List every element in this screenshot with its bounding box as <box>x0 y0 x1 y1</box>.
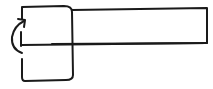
diagram-canvas <box>0 0 213 89</box>
long-bar <box>52 8 207 44</box>
rotation-arrow-icon <box>12 21 24 53</box>
axis-line <box>21 43 207 45</box>
